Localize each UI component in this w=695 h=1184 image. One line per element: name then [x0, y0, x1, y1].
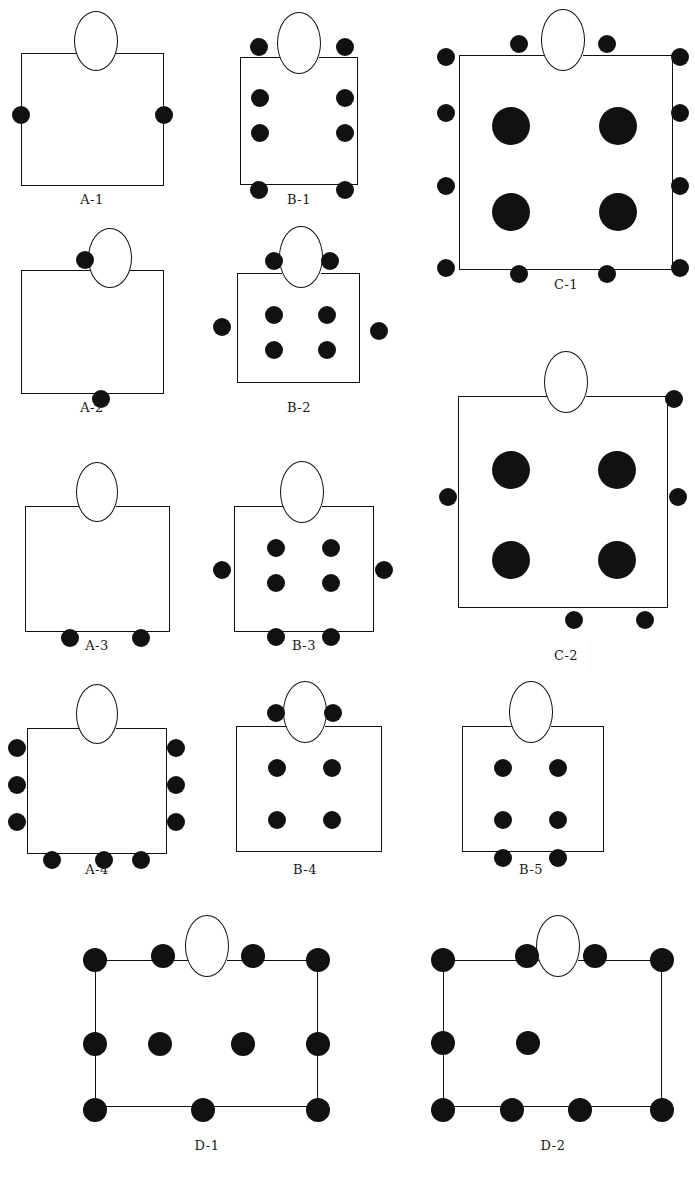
- seating-diagram-figure: A-1B-1C-1A-2B-2A-3B-3C-2A-4B-4B-5D-1D-2: [0, 0, 695, 1184]
- seat-dot: [213, 561, 231, 579]
- seat-dot: [437, 104, 455, 122]
- head-seat-oval: [544, 351, 588, 413]
- seat-dot: [167, 739, 185, 757]
- seat-dot: [671, 48, 689, 66]
- diagram-label: D-1: [167, 1138, 247, 1153]
- seat-dot: [306, 1032, 330, 1056]
- diagram-label: A-1: [52, 192, 132, 207]
- seat-dot: [665, 390, 683, 408]
- head-seat-oval: [536, 915, 580, 977]
- seat-dot: [8, 739, 26, 757]
- seat-dot: [265, 306, 283, 324]
- seat-dot: [268, 811, 286, 829]
- head-seat-oval: [277, 12, 321, 74]
- seat-dot: [431, 948, 455, 972]
- seat-dot-large: [599, 107, 637, 145]
- seat-dot: [650, 948, 674, 972]
- seat-dot: [322, 539, 340, 557]
- seat-dot: [191, 1098, 215, 1122]
- head-seat-oval: [509, 681, 553, 743]
- seat-dot: [306, 948, 330, 972]
- seat-dot: [213, 318, 231, 336]
- seat-dot: [370, 322, 388, 340]
- seat-dot-large: [492, 193, 530, 231]
- seat-dot: [231, 1032, 255, 1056]
- diagram-label: A-3: [57, 638, 137, 653]
- seat-dot: [323, 811, 341, 829]
- seat-dot: [267, 574, 285, 592]
- seat-dot: [494, 811, 512, 829]
- seat-dot-large: [492, 451, 530, 489]
- seat-dot: [671, 104, 689, 122]
- head-seat-oval: [74, 11, 118, 71]
- diagram-d-2: D-2: [0, 0, 695, 1184]
- seat-dot: [549, 759, 567, 777]
- seat-dot: [437, 177, 455, 195]
- head-seat-oval: [88, 228, 132, 288]
- head-seat-oval: [185, 915, 229, 977]
- diagram-label: A-2: [52, 400, 132, 415]
- seat-dot: [324, 704, 342, 722]
- seat-dot: [437, 259, 455, 277]
- head-seat-oval: [76, 684, 118, 744]
- seat-dot: [8, 813, 26, 831]
- diagram-label: B-2: [259, 400, 339, 415]
- diagram-label: B-3: [264, 638, 344, 653]
- seat-dot: [494, 759, 512, 777]
- seat-dot: [583, 944, 607, 968]
- seat-dot: [431, 1098, 455, 1122]
- seat-dot: [83, 948, 107, 972]
- seat-dot: [568, 1098, 592, 1122]
- diagram-label: D-2: [513, 1138, 593, 1153]
- seat-dot: [336, 89, 354, 107]
- seat-dot: [439, 488, 457, 506]
- seat-dot: [565, 611, 583, 629]
- table-rectangle: [443, 960, 662, 1107]
- seat-dot: [8, 776, 26, 794]
- seat-dot: [671, 177, 689, 195]
- diagram-label: B-1: [259, 192, 339, 207]
- seat-dot: [336, 124, 354, 142]
- diagram-label: C-1: [526, 277, 606, 292]
- seat-dot: [12, 106, 30, 124]
- seat-dot: [321, 252, 339, 270]
- seat-dot: [671, 259, 689, 277]
- seat-dot: [265, 341, 283, 359]
- diagram-label: B-4: [265, 862, 345, 877]
- seat-dot: [251, 124, 269, 142]
- seat-dot: [636, 611, 654, 629]
- seat-dot: [323, 759, 341, 777]
- seat-dot: [250, 38, 268, 56]
- seat-dot: [306, 1098, 330, 1122]
- seat-dot: [267, 704, 285, 722]
- diagram-label: C-2: [526, 648, 606, 663]
- seat-dot: [500, 1098, 524, 1122]
- head-seat-oval: [283, 681, 327, 743]
- seat-dot: [268, 759, 286, 777]
- seat-dot-large: [599, 193, 637, 231]
- head-seat-oval: [541, 9, 585, 71]
- seat-dot: [437, 48, 455, 66]
- seat-dot: [83, 1098, 107, 1122]
- seat-dot-large: [492, 541, 530, 579]
- seat-dot: [598, 35, 616, 53]
- seat-dot: [76, 251, 94, 269]
- head-seat-oval: [279, 226, 323, 288]
- seat-dot: [155, 106, 173, 124]
- seat-dot: [83, 1032, 107, 1056]
- seat-dot-large: [598, 541, 636, 579]
- seat-dot: [251, 89, 269, 107]
- seat-dot: [318, 341, 336, 359]
- seat-dot: [375, 561, 393, 579]
- head-seat-oval: [280, 461, 324, 523]
- seat-dot: [265, 252, 283, 270]
- seat-dot: [431, 1031, 455, 1055]
- diagram-label: B-5: [491, 862, 571, 877]
- seat-dot: [549, 811, 567, 829]
- seat-dot: [516, 1031, 540, 1055]
- seat-dot: [267, 539, 285, 557]
- seat-dot: [148, 1032, 172, 1056]
- seat-dot: [151, 944, 175, 968]
- seat-dot: [510, 35, 528, 53]
- seat-dot: [515, 944, 539, 968]
